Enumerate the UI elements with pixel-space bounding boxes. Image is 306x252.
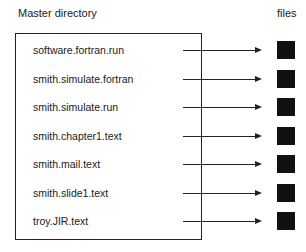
file-block-icon	[277, 127, 295, 145]
entry-name: software.fortran.run	[33, 44, 124, 56]
directory-entry: smith.simulate.fortran	[0, 70, 306, 90]
file-block-icon	[277, 70, 295, 88]
directory-entry: smith.slide1.text	[0, 184, 306, 204]
entry-name: smith.mail.text	[33, 158, 100, 170]
file-block-icon	[277, 98, 295, 116]
directory-entry: smith.chapter1.text	[0, 127, 306, 147]
entry-name: troy.JIR.text	[33, 215, 88, 227]
file-block-icon	[277, 184, 295, 202]
entry-name: smith.simulate.fortran	[33, 73, 133, 85]
arrow-icon	[183, 221, 255, 222]
file-block-icon	[277, 155, 295, 173]
entry-name: smith.chapter1.text	[33, 130, 122, 142]
entry-name: smith.simulate.run	[33, 101, 118, 113]
arrow-icon	[183, 136, 255, 137]
directory-entry: smith.mail.text	[0, 155, 306, 175]
arrow-icon	[183, 164, 255, 165]
master-directory-title: Master directory	[18, 7, 97, 19]
directory-entry: smith.simulate.run	[0, 98, 306, 118]
files-title: files	[277, 7, 297, 19]
arrow-icon	[183, 50, 255, 51]
file-block-icon	[277, 41, 295, 59]
directory-entry: software.fortran.run	[0, 41, 306, 61]
arrow-icon	[183, 193, 255, 194]
directory-entry: troy.JIR.text	[0, 212, 306, 232]
arrow-icon	[183, 79, 255, 80]
arrow-icon	[183, 107, 255, 108]
entry-name: smith.slide1.text	[33, 187, 108, 199]
file-block-icon	[277, 212, 295, 230]
